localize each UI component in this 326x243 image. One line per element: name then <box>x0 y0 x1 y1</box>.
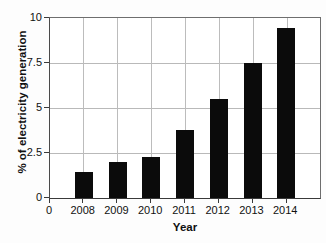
bar-2009 <box>109 162 127 198</box>
bar-2010 <box>142 157 160 198</box>
y-axis-tick-labels: 0 2.5 5 7.5 10 <box>16 10 42 205</box>
x-tick-mark-2009 <box>116 198 117 203</box>
x-tick-label-2014: 2014 <box>265 204 305 217</box>
bar-2013 <box>244 63 262 198</box>
x-axis-tick-labels: 02008200920102011201220132014 <box>0 204 326 220</box>
bar-2012 <box>210 99 228 198</box>
y-tick-label-7.5: 7.5 <box>16 57 42 68</box>
bar-chart-figure: % of electricity generation 0 2.5 5 7.5 … <box>0 0 326 243</box>
x-axis-title: Year <box>49 221 321 233</box>
x-tick-mark-2012 <box>218 198 219 203</box>
x-tick-mark-2008 <box>82 198 83 203</box>
plot-area <box>49 17 321 199</box>
y-tick-label-5: 5 <box>16 102 42 113</box>
x-tick-mark-2014 <box>286 198 287 203</box>
x-tick-mark-0 <box>49 198 50 203</box>
y-tick-label-10: 10 <box>16 12 42 23</box>
bar-2011 <box>176 130 194 198</box>
bar-2008 <box>75 172 93 198</box>
bars-layer <box>50 18 320 198</box>
y-tick-label-0: 0 <box>16 192 42 203</box>
x-tick-mark-2010 <box>150 198 151 203</box>
x-tick-mark-2013 <box>252 198 253 203</box>
x-tick-mark-2011 <box>184 198 185 203</box>
y-tick-label-2.5: 2.5 <box>16 147 42 158</box>
bar-2014 <box>277 28 295 198</box>
